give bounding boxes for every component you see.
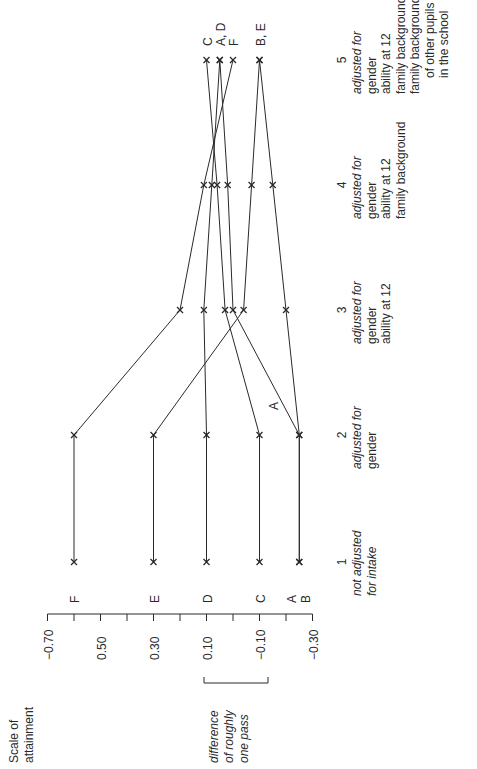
series-end-label: A, D (214, 22, 228, 46)
inline-label-a: A (267, 402, 281, 410)
category-label-line: adjusted for (350, 280, 364, 344)
category-number: 3 (335, 306, 349, 313)
y-tick-label: −0.70 (42, 629, 56, 660)
bracket-text-line3: one pass (237, 714, 251, 763)
category-label-line: adjusted for (350, 405, 364, 469)
category-label-line: family background (394, 0, 408, 94)
category-label-line: family background (394, 122, 408, 219)
attainment-chart: −0.700.500.300.10−0.10−0.30 FEDCAB CA, D… (0, 0, 477, 769)
category-label-line: for intake (365, 546, 379, 596)
category-label-line: gender (365, 307, 379, 344)
y-tick-label: 0.10 (201, 636, 215, 660)
category-number: 2 (335, 431, 349, 438)
category-label-line: adjusted for (350, 30, 364, 94)
series-end-label: F (227, 39, 241, 46)
y-tick-label: 0.50 (95, 636, 109, 660)
category-label-line: in the school (437, 11, 451, 78)
series-lines (74, 60, 299, 562)
series-start-label: D (201, 594, 215, 603)
series-start-label: C (254, 594, 268, 603)
category-number: 4 (335, 181, 349, 188)
category-label-line: not adjusted (350, 530, 364, 596)
category-label-line: gender (365, 182, 379, 219)
category-label-line: ability at 12 (379, 33, 393, 94)
series-end-label: B, E (254, 23, 268, 46)
category-label-line: family background (408, 0, 422, 94)
series-end-label: C (201, 37, 215, 46)
category-label-2: 2adjusted forgender (335, 405, 379, 469)
series-start-labels: FEDCAB (68, 594, 313, 603)
category-label-line: ability at 12 (379, 158, 393, 219)
category-label-4: 4adjusted forgenderability at 12family b… (335, 122, 408, 219)
axis-title-line1: Scale of (7, 719, 21, 763)
category-label-5: 5adjusted forgenderability at 12family b… (335, 0, 451, 94)
y-tick-label: −0.10 (254, 629, 268, 660)
category-label-line: gender (365, 432, 379, 469)
category-label-1: 1not adjustedfor intake (335, 530, 379, 596)
one-pass-bracket: difference of roughly one pass (204, 677, 268, 763)
bracket-text-line2: of roughly (222, 709, 236, 763)
category-label-line: adjusted for (350, 155, 364, 219)
bracket-text-line1: difference (207, 710, 221, 763)
series-start-label: A (285, 595, 299, 603)
axis-title-line2: attainment (22, 706, 36, 763)
category-number: 1 (335, 558, 349, 565)
category-label-line: of other pupils (423, 3, 437, 78)
y-axis-tick-labels: −0.700.500.300.10−0.10−0.30 (42, 629, 321, 660)
series-line-b (260, 60, 300, 562)
category-label-line: ability at 12 (379, 283, 393, 344)
series-start-label: B (299, 595, 313, 603)
category-label-line: gender (365, 57, 379, 94)
series-start-label: F (68, 596, 82, 603)
series-start-label: E (148, 595, 162, 603)
y-tick-label: 0.30 (148, 636, 162, 660)
series-end-labels: CA, DFB, E (201, 22, 268, 46)
y-tick-label: −0.30 (307, 629, 321, 660)
y-axis (48, 614, 313, 621)
series-line-d (204, 60, 220, 562)
category-number: 5 (335, 56, 349, 63)
category-label-3: 3adjusted forgenderability at 12 (335, 280, 393, 344)
category-labels: 1not adjustedfor intake2adjusted forgend… (335, 0, 451, 596)
